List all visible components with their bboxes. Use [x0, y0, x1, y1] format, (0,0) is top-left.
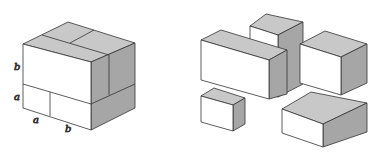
- flat-box: [282, 92, 367, 147]
- label-b-left: b: [14, 61, 20, 72]
- assembled-cube: b a a b: [14, 22, 135, 134]
- large-cube: [300, 31, 367, 95]
- label-a-left: a: [14, 91, 20, 102]
- label-a-bottom: a: [33, 114, 39, 125]
- cube-decomposition-diagram: b a a b: [0, 0, 379, 159]
- label-b-bottom: b: [65, 123, 71, 134]
- small-cube: [201, 88, 245, 131]
